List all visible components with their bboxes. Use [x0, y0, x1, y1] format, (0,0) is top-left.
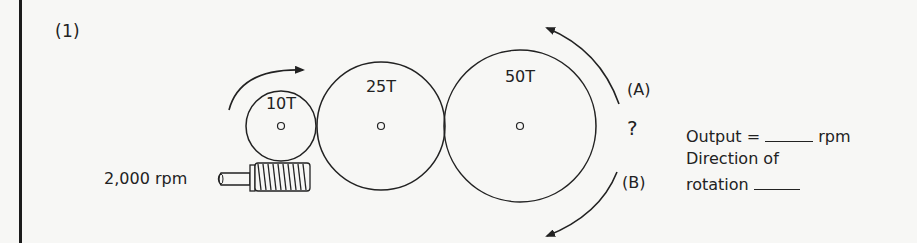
gear-train-diagram: 10T 25T 50T	[0, 0, 917, 243]
gear-10t-axle	[278, 123, 285, 130]
direction-line-2: rotation	[686, 175, 800, 193]
output-unit: rpm	[818, 127, 850, 146]
gear-10t: 10T	[246, 91, 316, 161]
worm-gear	[219, 163, 311, 191]
gear-25t-label: 25T	[366, 77, 396, 96]
gear-25t-axle	[378, 123, 385, 130]
direction-line-1: Direction of	[686, 151, 779, 167]
direction-label: rotation	[686, 175, 749, 194]
direction-answer-blank[interactable]	[754, 175, 800, 190]
gear-50t-axle	[517, 123, 524, 130]
gear-50t: 50T	[444, 50, 596, 202]
gear-50t-label: 50T	[505, 67, 535, 86]
output-line: Output = rpm	[686, 127, 851, 145]
direction-arrow-b	[547, 172, 617, 236]
direction-option-a: (A)	[627, 82, 650, 98]
gear-10t-label: 10T	[266, 94, 296, 113]
output-answer-blank[interactable]	[765, 127, 813, 142]
output-prefix: Output =	[686, 127, 760, 146]
unknown-marker: ?	[627, 118, 638, 138]
direction-option-b: (B)	[622, 175, 645, 191]
input-speed-label: 2,000 rpm	[104, 171, 187, 187]
gear-25t: 25T	[317, 62, 445, 190]
direction-arrow-a	[547, 28, 619, 104]
